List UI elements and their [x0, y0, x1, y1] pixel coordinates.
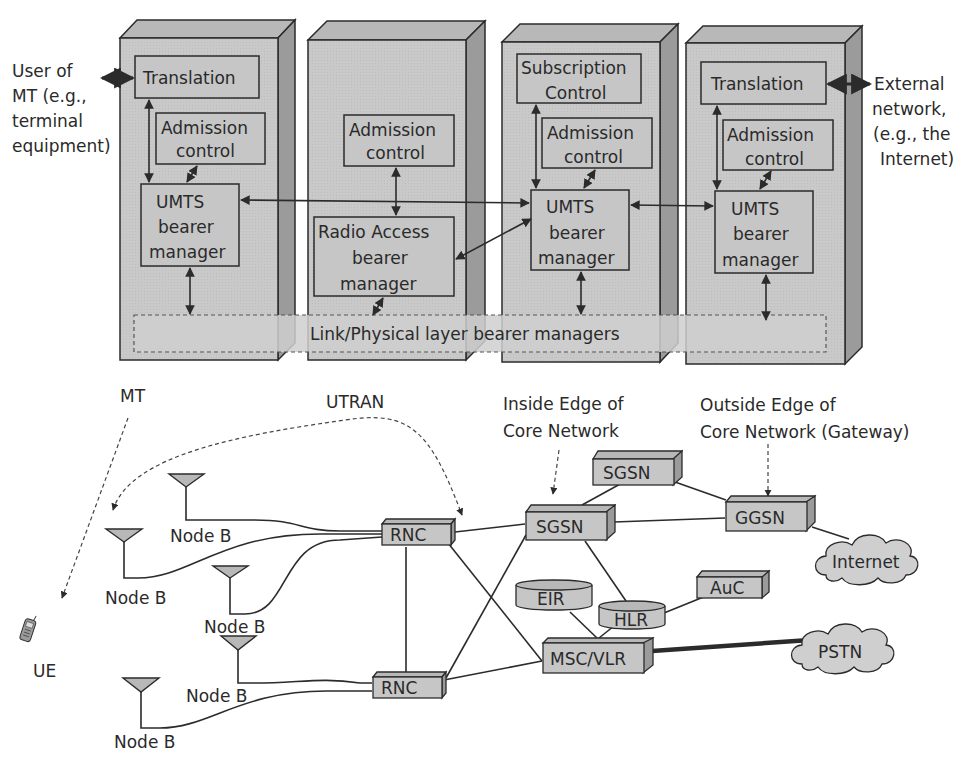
svg-text:User of: User of [12, 61, 74, 81]
svg-text:control: control [366, 143, 425, 163]
svg-text:control: control [745, 149, 804, 169]
node-b-label: Node B [114, 732, 175, 752]
inside-edge-label-line2: Core Network [503, 421, 619, 441]
rnc-node-top: RNC [382, 519, 455, 545]
svg-text:RNC: RNC [390, 525, 426, 545]
svg-text:UMTS: UMTS [156, 192, 204, 212]
sgsn-node-top: SGSN [593, 451, 682, 485]
svg-text:SGSN: SGSN [536, 517, 583, 537]
svg-text:Admission: Admission [727, 125, 814, 145]
utran-radio-access-bearer-manager-box: Radio Access bearer manager [314, 217, 454, 296]
mt-admission-control-box: Admission control [156, 113, 265, 164]
cn-subscription-control-box: Subscription Control [517, 54, 641, 103]
svg-text:External: External [874, 74, 945, 94]
svg-text:network,: network, [872, 99, 946, 119]
internet-cloud: Internet [816, 535, 918, 585]
svg-text:bearer: bearer [158, 217, 214, 237]
svg-text:manager: manager [149, 242, 225, 262]
eir-database-node: EIR [516, 580, 592, 610]
svg-text:SGSN: SGSN [603, 463, 650, 483]
svg-text:Translation: Translation [710, 74, 804, 94]
gw-admission-control-box: Admission control [723, 120, 833, 170]
svg-text:MT (e.g.,: MT (e.g., [12, 86, 87, 106]
svg-text:GGSN: GGSN [735, 508, 785, 528]
external-network-label: External network, (e.g., the Internet) [872, 74, 954, 169]
svg-text:bearer: bearer [352, 248, 408, 268]
outside-edge-label-line2: Core Network (Gateway) [700, 422, 910, 442]
svg-text:AuC: AuC [710, 578, 744, 598]
svg-text:Admission: Admission [161, 118, 248, 138]
ue-handset-icon [19, 613, 38, 642]
svg-text:Translation: Translation [142, 68, 236, 88]
inside-edge-label-line1: Inside Edge of [503, 394, 625, 414]
node-b-antenna [123, 678, 159, 692]
svg-text:manager: manager [538, 248, 614, 268]
utran-admission-control-box: Admission control [344, 115, 454, 166]
svg-text:Internet: Internet [832, 552, 900, 572]
mt-translation-box: Translation [135, 56, 259, 98]
node-b-antenna [169, 474, 204, 487]
gw-translation-box: Translation [701, 62, 826, 104]
svg-text:Admission: Admission [349, 120, 436, 140]
node-b-antenna [221, 636, 256, 650]
svg-text:HLR: HLR [614, 610, 648, 630]
pstn-cloud: PSTN [792, 624, 894, 674]
outside-edge-label-line1: Outside Edge of [700, 395, 837, 415]
svg-text:control: control [176, 141, 235, 161]
svg-text:control: control [564, 147, 623, 167]
utran-label: UTRAN [326, 392, 384, 412]
svg-text:Internet): Internet) [880, 149, 954, 169]
svg-text:UMTS: UMTS [731, 199, 779, 219]
svg-text:manager: manager [340, 274, 416, 294]
svg-text:Control: Control [545, 83, 606, 103]
cn-admission-control-box: Admission control [542, 118, 652, 168]
svg-text:terminal: terminal [12, 111, 83, 131]
mt-umts-bearer-manager-box: UMTS bearer manager [141, 184, 239, 266]
msc-vlr-node: MSC/VLR [543, 638, 653, 673]
hlr-database-node: HLR [599, 601, 665, 630]
node-b-label: Node B [186, 686, 247, 706]
node-b-label: Node B [170, 526, 231, 546]
node-b-antenna [106, 529, 142, 542]
svg-text:bearer: bearer [549, 223, 605, 243]
auc-node: AuC [697, 571, 769, 598]
svg-text:manager: manager [722, 250, 798, 270]
svg-text:MSC/VLR: MSC/VLR [550, 649, 626, 669]
umts-architecture-diagram: Link/Physical layer bearer managers Tran… [0, 0, 966, 766]
svg-text:RNC: RNC [381, 678, 417, 698]
svg-text:UMTS: UMTS [546, 197, 594, 217]
node-b-label: Node B [105, 588, 166, 608]
link-physical-layer-band: Link/Physical layer bearer managers [134, 315, 826, 352]
svg-text:PSTN: PSTN [818, 642, 862, 662]
user-of-mt-label: User of MT (e.g., terminal equipment) [12, 61, 111, 156]
cn-umts-bearer-manager-box: UMTS bearer manager [531, 190, 629, 270]
svg-text:Subscription: Subscription [521, 58, 627, 78]
rnc-node-bottom: RNC [373, 672, 446, 698]
ue-label: UE [33, 661, 56, 681]
svg-text:Admission: Admission [547, 123, 634, 143]
sgsn-node-main: SGSN [526, 505, 615, 540]
svg-text:Radio Access: Radio Access [318, 222, 430, 242]
msc-pstn-trunk [652, 640, 810, 651]
link-physical-layer-label: Link/Physical layer bearer managers [310, 324, 620, 344]
node-b-label: Node B [204, 617, 265, 637]
svg-text:equipment): equipment) [12, 136, 111, 156]
node-b-antenna [213, 566, 248, 578]
dashed-pointers [62, 418, 768, 598]
svg-text:bearer: bearer [733, 224, 789, 244]
ggsn-node: GGSN [726, 496, 815, 531]
mt-label: MT [120, 386, 146, 406]
gw-umts-bearer-manager-box: UMTS bearer manager [715, 191, 813, 273]
svg-text:EIR: EIR [537, 589, 565, 609]
svg-text:(e.g., the: (e.g., the [873, 124, 950, 144]
